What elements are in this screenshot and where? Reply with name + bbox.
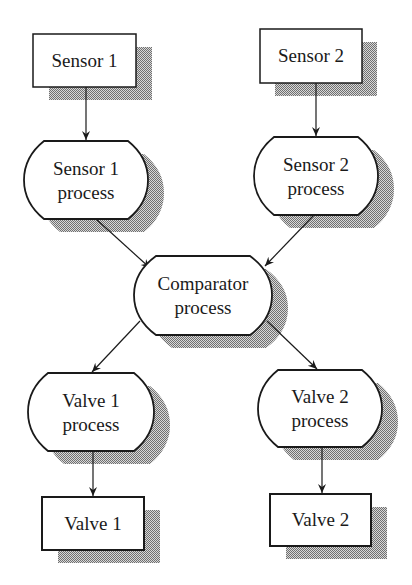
valve1-process-shape (28, 373, 154, 451)
sensor1-label: Sensor 1 (52, 50, 118, 71)
sensor1-process-label-line1: Sensor 1 (53, 158, 119, 179)
edge-comparator-to-valve1-process (92, 321, 140, 372)
valve2-process-shape (258, 370, 382, 447)
node-comparator-process: Comparator process (134, 256, 272, 335)
valve2-label: Valve 2 (292, 509, 350, 530)
sensor2-process-label-line1: Sensor 2 (283, 154, 349, 175)
comparator-process-label-line2: process (175, 297, 232, 318)
node-sensor1: Sensor 1 (33, 34, 136, 87)
sensor2-label: Sensor 2 (278, 45, 344, 66)
sensor2-process-shape (254, 137, 378, 215)
process-diagram: Sensor 1 Sensor 2 Sensor 1 process Senso… (0, 0, 412, 585)
sensor1-process-label-line2: process (58, 182, 115, 203)
node-sensor1-process: Sensor 1 process (24, 141, 148, 219)
node-valve1-process: Valve 1 process (28, 373, 154, 451)
node-valve1: Valve 1 (42, 497, 144, 550)
valve1-process-label-line2: process (63, 414, 120, 435)
edge-comparator-to-valve2-process (267, 321, 317, 369)
sensor2-process-label-line2: process (288, 178, 345, 199)
comparator-process-shape (134, 256, 272, 335)
comparator-process-label-line1: Comparator (158, 273, 249, 294)
node-valve2-process: Valve 2 process (258, 370, 382, 447)
node-sensor2: Sensor 2 (260, 29, 362, 83)
valve2-process-label-line2: process (292, 410, 349, 431)
node-sensor2-process: Sensor 2 process (254, 137, 378, 215)
sensor1-process-shape (24, 141, 148, 219)
node-valve2: Valve 2 (270, 494, 371, 546)
valve2-process-label-line1: Valve 2 (291, 386, 349, 407)
valve1-label: Valve 1 (64, 513, 122, 534)
valve1-process-label-line1: Valve 1 (62, 390, 120, 411)
